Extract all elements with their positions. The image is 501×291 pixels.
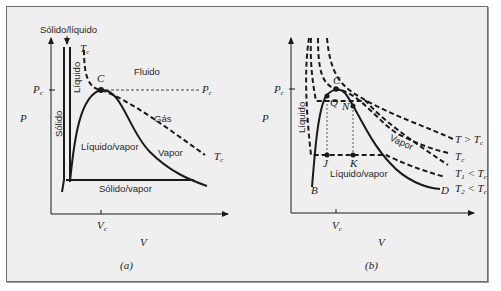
point-q-dot	[325, 94, 330, 99]
label-isotherm-tc: Tc	[455, 150, 465, 164]
panel-a: Sólido/líquido Tc Líquido Sólido C Fluid…	[19, 24, 228, 272]
caption-a: (a)	[120, 259, 133, 272]
label-vapor-a: Vapor	[158, 147, 183, 158]
label-p-axis-a: P	[19, 112, 27, 124]
label-isotherm-t2: T2 < Tc	[455, 182, 488, 196]
point-n-dot	[351, 104, 356, 109]
panel-b: C Pc Q N P Líquido Vapor J K Líquido/vap…	[261, 38, 488, 272]
label-pc-left-a: Pc	[32, 83, 44, 97]
pv-diagrams: Sólido/líquido Tc Líquido Sólido C Fluid…	[0, 0, 501, 291]
label-tc-top-a: Tc	[80, 42, 90, 56]
label-solid-vapor: Sólido/vapor	[99, 183, 152, 194]
label-solid-a: Sólido	[53, 111, 64, 137]
label-n: N	[341, 100, 350, 112]
label-isotherm-t-above-tc: T > Tc	[455, 133, 484, 147]
label-liquid-b: Líquido	[296, 102, 307, 133]
label-d: D	[440, 184, 449, 196]
critical-point-dot-a	[98, 87, 104, 93]
label-liquid-a: Líquido	[71, 62, 82, 93]
label-vc-b: Vc	[332, 219, 343, 233]
critical-point-dot-b	[333, 86, 339, 92]
label-v-axis-b: V	[378, 236, 386, 248]
caption-b: (b)	[365, 259, 378, 272]
label-critical-c-a: C	[97, 72, 105, 84]
label-q: Q	[330, 96, 338, 108]
label-vc-a: Vc	[97, 219, 108, 233]
label-fluid: Fluido	[134, 66, 160, 77]
label-b: B	[311, 184, 318, 196]
label-vapor-b: Vapor	[388, 132, 415, 152]
label-p-axis-b: P	[261, 112, 269, 124]
label-j: J	[323, 157, 329, 169]
label-tc-end-a: Tc	[214, 150, 224, 164]
saturation-dome-a	[70, 90, 207, 186]
label-liquid-vapor-a: Líquido/vapor	[81, 141, 139, 152]
label-pc-b: Pc	[273, 83, 285, 97]
label-liquid-vapor-b: Líquido/vapor	[330, 168, 388, 179]
label-isotherm-t1: T1 < Tc	[455, 167, 488, 181]
label-critical-c-b: C	[333, 74, 341, 86]
label-gas: Gás	[154, 113, 172, 124]
label-solid-liquid: Sólido/líquido	[40, 24, 97, 35]
label-v-axis-a: V	[140, 236, 148, 248]
label-pc-right-a: Pc	[201, 83, 213, 97]
